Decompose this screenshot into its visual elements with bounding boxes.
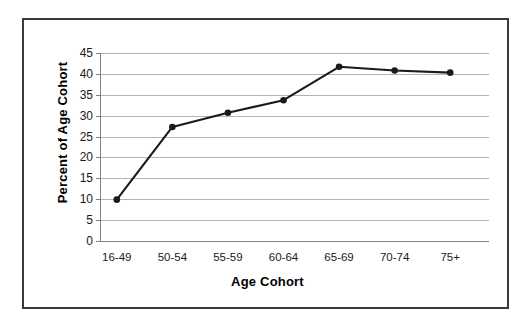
data-point-70-74: [391, 67, 398, 74]
plot-area: 051015202530354045 16-4950-5455-5960-646…: [100, 53, 489, 241]
x-tick-label-60-64: 60-64: [269, 251, 298, 263]
y-tick-label-10: 10: [80, 192, 93, 206]
x-tick-label-16-49: 16-49: [102, 251, 131, 263]
y-tick-mark-0: [96, 241, 100, 242]
chart-figure-frame: Percent of Age Cohort 051015202530354045…: [22, 18, 509, 309]
x-tick-label-75-: 75+: [440, 251, 460, 263]
y-tick-label-35: 35: [80, 88, 93, 102]
data-point-55-59: [225, 109, 232, 116]
x-tick-label-50-54: 50-54: [158, 251, 187, 263]
y-tick-label-0: 0: [86, 234, 93, 248]
y-tick-label-45: 45: [80, 46, 93, 60]
data-point-60-64: [280, 97, 287, 104]
y-tick-label-30: 30: [80, 109, 93, 123]
x-tick-label-65-69: 65-69: [324, 251, 353, 263]
y-tick-label-40: 40: [80, 67, 93, 81]
x-tick-label-70-74: 70-74: [380, 251, 409, 263]
line-series-svg: [100, 53, 489, 241]
y-tick-label-20: 20: [80, 150, 93, 164]
y-axis-title: Percent of Age Cohort: [55, 38, 70, 228]
y-tick-label-25: 25: [80, 130, 93, 144]
gridline-0: [100, 241, 489, 242]
x-tick-label-55-59: 55-59: [213, 251, 242, 263]
series-markers-group: [113, 63, 453, 202]
y-tick-label-5: 5: [86, 213, 93, 227]
series-line-percent-of-age-cohort: [117, 67, 450, 200]
data-point-16-49: [113, 196, 120, 203]
data-point-65-69: [336, 63, 343, 70]
data-point-75-: [447, 69, 454, 76]
data-point-50-54: [169, 124, 176, 131]
y-tick-label-15: 15: [80, 171, 93, 185]
x-axis-title: Age Cohort: [24, 274, 511, 289]
